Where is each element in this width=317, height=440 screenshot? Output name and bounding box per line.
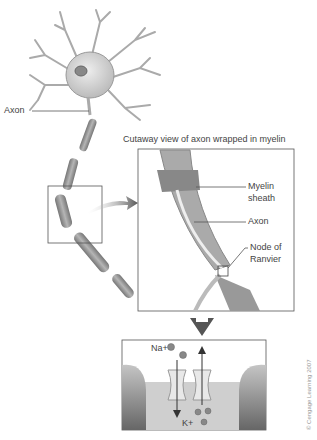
myelin-label-1: Myelin	[248, 181, 274, 192]
axon-label: Axon	[4, 105, 25, 116]
potassium-label: K+	[182, 418, 193, 429]
copyright-credit: © Cengage Learning 2007	[306, 360, 312, 430]
nucleus	[75, 66, 87, 76]
myelin-label-2: sheath	[248, 193, 275, 204]
cutaway-title: Cutaway view of axon wrapped in myelin	[123, 134, 286, 145]
node-label-1: Node of	[250, 242, 282, 253]
axon-cutaway-label: Axon	[248, 216, 269, 227]
node-label-2: Ranvier	[250, 254, 281, 265]
sodium-label: Na+	[151, 343, 168, 354]
zoom-region-box	[48, 186, 102, 243]
cell-body	[66, 52, 114, 98]
neuron-diagram	[0, 0, 317, 440]
